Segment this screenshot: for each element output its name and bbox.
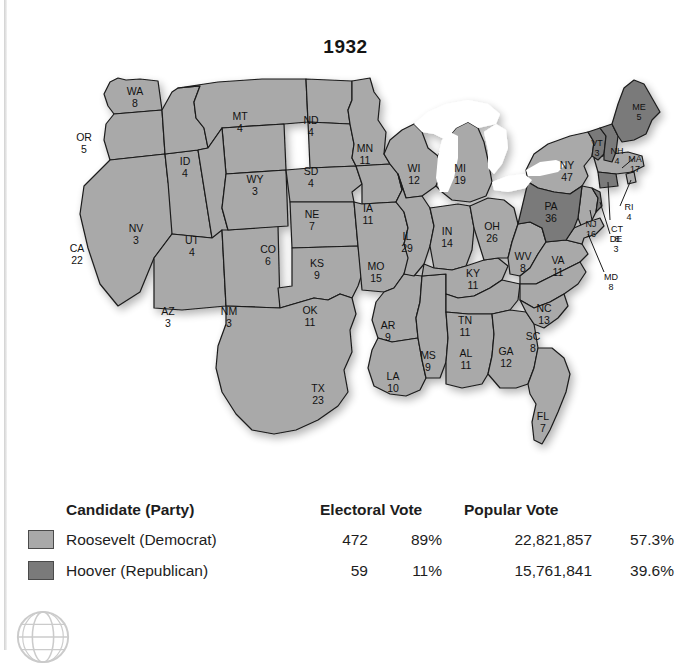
legend-candidate-hoover: Hoover (Republican) (66, 562, 316, 580)
state-votes-KY: 11 (468, 279, 479, 291)
leader-line-CT (608, 182, 610, 220)
state-votes-OH: 26 (486, 232, 498, 244)
state-label-IA: IA11 (363, 202, 374, 226)
state-code-FL: FL (537, 410, 549, 422)
state-code-AL: AL (460, 347, 473, 359)
state-label-CA: CA22 (70, 242, 85, 266)
state-label-WI: WI12 (408, 162, 421, 186)
state-NM (222, 226, 280, 308)
state-code-IL: IL (403, 230, 412, 242)
legend-header-candidate: Candidate (Party) (66, 501, 316, 519)
state-label-GA: GA12 (498, 345, 513, 369)
state-label-NJ: NJ16 (586, 219, 597, 239)
state-code-AR: AR (381, 319, 396, 331)
legend-row-roosevelt: Roosevelt (Democrat) 472 89% 22,821,857 … (28, 524, 676, 555)
state-label-MA: MA17 (628, 154, 642, 174)
state-label-AL: AL11 (460, 347, 473, 371)
state-votes-IL: 29 (401, 242, 413, 254)
state-code-CO: CO (260, 243, 276, 255)
state-votes-MA: 17 (630, 164, 640, 174)
state-votes-MS: 9 (425, 361, 431, 373)
state-label-MD: MD8 (604, 272, 618, 292)
state-code-WI: WI (408, 162, 421, 174)
legend-electoral-vote-hoover: 59 (316, 562, 368, 580)
state-votes-NJ: 16 (586, 229, 596, 239)
legend-popular-vote-roosevelt: 22,821,857 (442, 531, 592, 549)
state-code-GA: GA (498, 345, 513, 357)
state-label-OR: OR5 (76, 131, 92, 155)
state-label-MI: MI19 (454, 162, 466, 186)
state-code-NE: NE (305, 208, 320, 220)
state-label-NC: NC13 (536, 302, 552, 326)
state-code-TN: TN (458, 314, 472, 326)
state-votes-NC: 13 (538, 314, 550, 326)
state-label-PA: PA36 (544, 200, 557, 224)
state-code-UT: UT (185, 234, 200, 246)
us-electoral-map: WA8OR5CA22NV3ID4MT4WY3UT4AZ3NM3CO6ND4SD4… (22, 62, 682, 472)
legend-swatch-republican (28, 561, 54, 580)
state-code-WY: WY (247, 173, 264, 185)
state-code-IA: IA (363, 202, 373, 214)
legend-swatch-cell-hoover (28, 561, 66, 580)
state-SD (308, 122, 356, 168)
state-code-MN: MN (357, 142, 373, 154)
state-votes-CO: 6 (265, 255, 271, 267)
legend-popular-pct-roosevelt: 57.3% (592, 531, 674, 549)
state-code-SD: SD (304, 165, 319, 177)
legend-row-hoover: Hoover (Republican) 59 11% 15,761,841 39… (28, 555, 676, 586)
globe-icon (14, 608, 72, 666)
state-code-SC: SC (526, 330, 541, 342)
state-OR (104, 110, 165, 160)
state-votes-PA: 36 (545, 212, 557, 224)
state-code-CA: CA (70, 242, 85, 254)
state-label-LA: LA10 (387, 370, 400, 394)
state-votes-IA: 11 (363, 214, 374, 226)
state-code-CT: CT (611, 224, 623, 234)
state-code-MI: MI (454, 162, 466, 174)
state-code-KS: KS (310, 257, 324, 269)
state-votes-FL: 7 (540, 422, 546, 434)
state-label-IL: IL29 (401, 230, 413, 254)
state-KS (290, 202, 358, 248)
state-votes-SC: 8 (530, 342, 536, 354)
state-code-TX: TX (311, 382, 324, 394)
state-votes-NE: 7 (309, 220, 315, 232)
state-votes-VA: 11 (553, 266, 564, 278)
state-code-MD: MD (604, 272, 618, 282)
page-edge-artifact (4, 0, 7, 650)
state-code-LA: LA (387, 370, 400, 382)
state-votes-OK: 11 (305, 316, 316, 328)
legend-popular-pct-hoover: 39.6% (592, 562, 674, 580)
state-label-DE: DE3 (610, 234, 623, 254)
state-code-WV: WV (515, 250, 532, 262)
state-code-ND: ND (303, 114, 319, 126)
state-code-OK: OK (302, 304, 317, 316)
state-label-OK: OK11 (302, 304, 317, 328)
state-votes-CA: 22 (71, 254, 83, 266)
state-votes-MO: 15 (370, 272, 382, 284)
state-votes-RI: 4 (626, 212, 631, 222)
legend-header-row: Candidate (Party) Electoral Vote Popular… (28, 496, 676, 524)
state-code-NH: NH (611, 146, 624, 156)
state-label-IN: IN14 (441, 225, 453, 249)
state-code-MO: MO (368, 260, 385, 272)
state-code-RI: RI (625, 202, 634, 212)
state-votes-AR: 9 (385, 331, 391, 343)
state-label-VA: VA11 (551, 254, 564, 278)
state-code-ID: ID (180, 155, 191, 167)
state-code-MA: MA (628, 154, 642, 164)
leader-line-MD (588, 234, 604, 272)
state-code-KY: KY (466, 267, 480, 279)
state-code-NJ: NJ (586, 219, 597, 229)
state-votes-NV: 3 (133, 234, 139, 246)
state-votes-IN: 14 (441, 237, 453, 249)
legend-swatch-democrat (28, 530, 54, 549)
state-label-OH: OH26 (484, 220, 500, 244)
legend-electoral-pct-roosevelt: 89% (368, 531, 442, 549)
state-votes-WA: 8 (132, 97, 138, 109)
state-votes-TX: 23 (312, 394, 324, 406)
state-votes-MT: 4 (237, 122, 243, 134)
state-label-AZ: AZ3 (161, 305, 175, 329)
page-title: 1932 (0, 36, 691, 58)
